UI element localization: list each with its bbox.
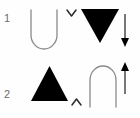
puzzle-row-1: 1 [0,0,140,59]
triangle-down-filled-icon [80,7,120,45]
u-shape-outline-icon [29,9,59,51]
row-label-1: 1 [4,13,10,24]
arch-outline-icon [88,63,118,109]
puzzle-row-2: 2 [0,59,140,118]
row-label-2: 2 [4,89,10,100]
chevron-down-icon [65,7,78,19]
arrow-down-icon [119,13,131,49]
puzzle-canvas: 1 2 [0,0,140,118]
chevron-up-icon [70,96,83,108]
arrow-up-icon [119,61,131,97]
triangle-up-filled-icon [30,65,69,103]
